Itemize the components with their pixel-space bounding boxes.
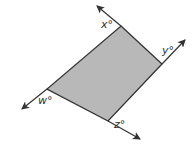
angle-label-y: y° <box>161 44 174 57</box>
angle-label-x: x° <box>100 18 113 31</box>
angle-label-w: w° <box>38 94 53 107</box>
angle-label-z: z° <box>113 118 125 131</box>
parallelogram-shape <box>47 26 162 121</box>
parallelogram-diagram: x° y° w° z° <box>0 0 196 148</box>
